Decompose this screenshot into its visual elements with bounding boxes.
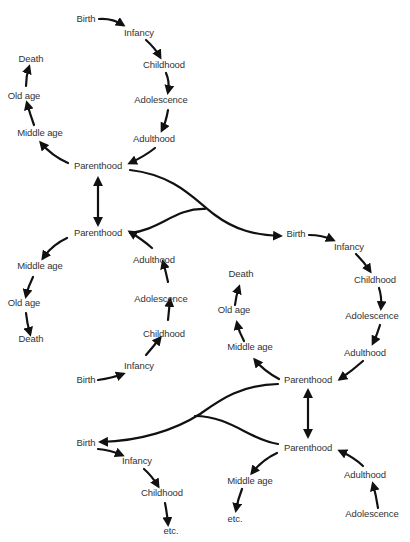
- node-adolescence-3: Adolescence: [345, 311, 398, 321]
- node-parenthood-4: Parenthood: [284, 443, 332, 453]
- node-adolescence-4: Adolescence: [345, 509, 398, 519]
- node-adulthood-2: Adulthood: [133, 255, 175, 265]
- node-middle-age-2: Middle age: [17, 261, 62, 271]
- node-death-1: Death: [19, 54, 44, 64]
- node-infancy-2: Infancy: [124, 361, 154, 371]
- life-cycle-diagram: Birth Infancy Childhood Adolescence Adul…: [0, 0, 410, 542]
- node-middle-age-4: Middle age: [227, 476, 272, 486]
- node-birth-1: Birth: [76, 14, 95, 24]
- node-old-age-1: Old age: [8, 91, 41, 101]
- node-infancy-3: Infancy: [334, 242, 364, 252]
- node-old-age-3: Old age: [218, 305, 251, 315]
- node-old-age-2: Old age: [8, 298, 41, 308]
- node-parenthood-3: Parenthood: [284, 375, 332, 385]
- node-childhood-2: Childhood: [143, 329, 185, 339]
- node-infancy-5: Infancy: [122, 456, 152, 466]
- lineage-curve-b: [130, 209, 205, 233]
- node-adolescence-2: Adolescence: [134, 294, 187, 304]
- node-infancy-1: Infancy: [124, 28, 154, 38]
- node-birth-3: Birth: [286, 229, 305, 239]
- node-death-3: Death: [229, 269, 254, 279]
- node-parenthood-1: Parenthood: [74, 161, 122, 171]
- node-childhood-1: Childhood: [143, 60, 185, 70]
- node-birth-2: Birth: [76, 375, 95, 385]
- lineage-curve-d: [195, 416, 278, 444]
- node-etc-5: etc.: [164, 526, 179, 536]
- node-middle-age-1: Middle age: [17, 128, 62, 138]
- node-childhood-3: Childhood: [354, 275, 396, 285]
- node-birth-5: Birth: [76, 438, 95, 448]
- node-childhood-5: Childhood: [141, 488, 183, 498]
- node-adolescence-1: Adolescence: [134, 95, 187, 105]
- node-etc-4: etc.: [228, 514, 243, 524]
- node-adulthood-1: Adulthood: [133, 134, 175, 144]
- node-adulthood-4: Adulthood: [344, 470, 386, 480]
- node-parenthood-2: Parenthood: [74, 228, 122, 238]
- node-middle-age-3: Middle age: [227, 342, 272, 352]
- node-adulthood-3: Adulthood: [344, 348, 386, 358]
- node-death-2: Death: [19, 334, 44, 344]
- lineage-curve-c: [101, 384, 278, 442]
